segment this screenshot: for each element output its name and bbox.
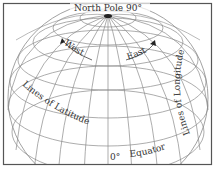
latitude-label: Lines of Latitude <box>21 79 91 127</box>
globe-diagram: North Pole 90° West East Lines of Latitu… <box>0 0 217 173</box>
equator-degree-label: 0° <box>110 152 120 162</box>
west-label: West <box>62 38 86 58</box>
north-pole-marker <box>104 14 112 18</box>
north-pole-label: North Pole 90° <box>74 3 142 13</box>
equator-label: Equator <box>129 141 167 159</box>
